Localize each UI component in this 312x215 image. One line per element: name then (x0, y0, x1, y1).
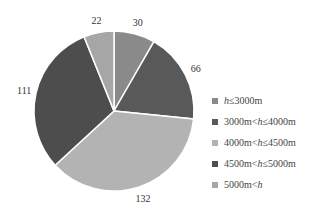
legend-label: 5000m<h (224, 179, 262, 190)
data-label: 132 (136, 193, 151, 204)
legend-swatch (212, 140, 218, 146)
legend-label: 3000m<h≤4000m (224, 116, 296, 127)
legend-label: h≤3000m (224, 95, 262, 106)
legend-item-4000-4500: 4000m<h≤4500m (212, 132, 296, 153)
legend-item-3000-4000: 3000m<h≤4000m (212, 111, 296, 132)
legend-item-h-le-3000: h≤3000m (212, 90, 296, 111)
legend-item-gt-5000: 5000m<h (212, 174, 296, 195)
data-label: 30 (133, 17, 143, 28)
data-label: 66 (191, 63, 201, 74)
legend-swatch (212, 182, 218, 188)
legend-label: 4000m<h≤4500m (224, 137, 296, 148)
data-label: 22 (91, 15, 101, 26)
legend-swatch (212, 119, 218, 125)
legend-swatch (212, 98, 218, 104)
data-label: 111 (17, 85, 31, 96)
legend-item-4500-5000: 4500m<h≤5000m (212, 153, 296, 174)
legend-swatch (212, 161, 218, 167)
legend: h≤3000m 3000m<h≤4000m 4000m<h≤4500m 4500… (212, 90, 296, 195)
legend-label: 4500m<h≤5000m (224, 158, 296, 169)
